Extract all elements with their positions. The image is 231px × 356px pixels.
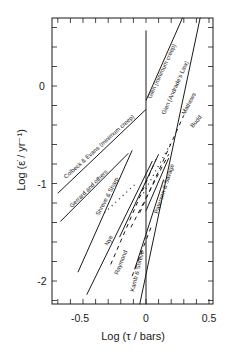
series-line [58,109,146,193]
x-axis-title: Log (τ / bars) [101,330,165,342]
label-budd: Budd [189,114,203,129]
label-mathews: Mathews [181,91,198,115]
x-tick-label-0: 0 [143,312,149,324]
y-axis-title: Log (ε̇ / yr⁻¹) [15,129,27,191]
series-line [60,153,128,221]
label-nye: Nye [104,234,115,247]
y-tick-label-neg2: -2 [37,275,46,287]
label-kamb-shreve: Kamb & Shreve [129,249,145,292]
axis-ticks [52,18,213,304]
label-raymond: Raymond [113,249,128,275]
plot-frame [52,18,213,304]
label-colbeck-evans: Colbeck & Evans (minimum creep) [63,113,136,179]
x-tick-label-neg05: -0.5 [71,312,89,324]
y-tick-label-0: 0 [39,80,45,92]
creep-rate-chart: -0.5 0 0.5 0 -1 -2 Log (τ / bars) Log (ε… [0,0,231,356]
x-tick-label-05: 0.5 [202,312,217,324]
y-tick-label-neg1: -1 [37,178,46,190]
label-paterson-savage: Paterson & Savage [153,163,175,215]
